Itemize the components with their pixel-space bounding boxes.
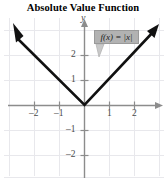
coordinate-plane: [0, 0, 166, 182]
y-tick-label-neg1: –1: [66, 124, 76, 134]
y-tick-label-2: 2: [71, 49, 76, 59]
x-tick-label-2: 2: [132, 108, 137, 118]
y-axis-label: y: [81, 12, 85, 23]
x-tick-label-1: 1: [107, 108, 112, 118]
y-axis: [81, 19, 89, 178]
y-tick-label-1: 1: [71, 74, 76, 84]
function-label-text: f(x) = |x|: [100, 33, 132, 42]
x-tick-label-neg2: –2: [29, 108, 39, 118]
x-tick-label-neg1: –1: [54, 108, 64, 118]
y-tick-label-neg2: –2: [66, 149, 76, 159]
absolute-value-function-figure: Absolute Value Function: [0, 0, 166, 182]
function-label-callout: f(x) = |x|: [94, 30, 139, 44]
